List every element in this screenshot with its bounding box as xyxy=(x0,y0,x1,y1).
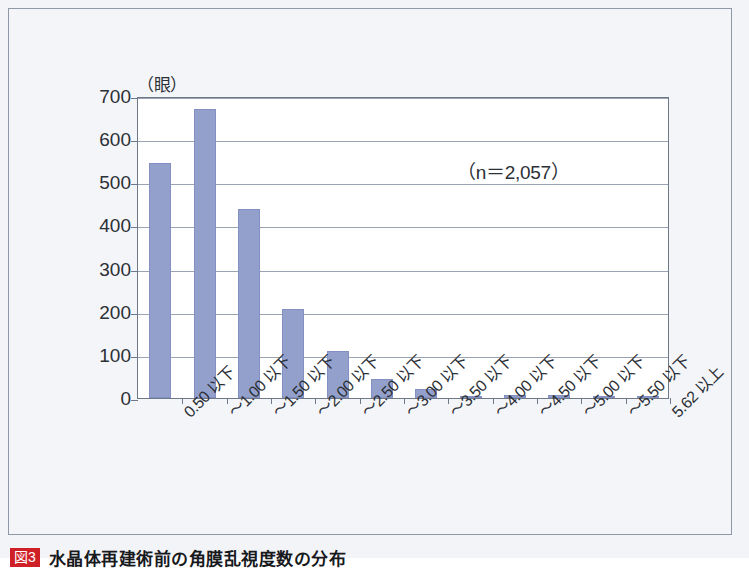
y-tick-mark-500 xyxy=(131,184,138,185)
y-tick-label-700: 700 xyxy=(79,86,131,108)
y-axis-tick-labels: 0100200300400500600700 xyxy=(75,97,131,399)
bar xyxy=(149,163,171,398)
y-tick-mark-700 xyxy=(131,98,138,99)
y-tick-label-300: 300 xyxy=(79,259,131,281)
y-tick-label-400: 400 xyxy=(79,215,131,237)
y-tick-mark-300 xyxy=(131,271,138,272)
sample-size-annotation: （n＝2,057） xyxy=(457,157,569,184)
y-tick-mark-600 xyxy=(131,141,138,142)
y-tick-mark-400 xyxy=(131,227,138,228)
y-tick-label-200: 200 xyxy=(79,302,131,324)
y-tick-label-500: 500 xyxy=(79,172,131,194)
figure-number-badge: 図3 xyxy=(10,548,40,567)
x-axis-tick-labels: 0.50 以下～1.00 以下～1.50 以下～2.00 以下～2.50 以下～… xyxy=(137,401,669,511)
y-tick-label-0: 0 xyxy=(79,388,131,410)
y-tick-label-600: 600 xyxy=(79,129,131,151)
y-tick-label-100: 100 xyxy=(79,345,131,367)
figure-caption: 図3 水晶体再建術前の角膜乱視度数の分布 xyxy=(10,545,346,570)
figure-caption-text: 水晶体再建術前の角膜乱視度数の分布 xyxy=(49,545,347,570)
bar xyxy=(194,109,216,398)
y-tick-mark-100 xyxy=(131,357,138,358)
y-axis-unit-label: （眼） xyxy=(137,71,187,96)
figure-frame: （眼） 0100200300400500600700 （n＝2,057） 0.5… xyxy=(8,8,732,535)
y-tick-mark-200 xyxy=(131,314,138,315)
